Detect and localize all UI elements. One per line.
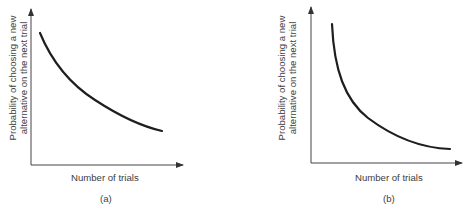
chart-b [311, 7, 462, 163]
y-label-line1: Probability of choosing a new [7, 0, 18, 158]
x-axis-label-b: Number of trials [355, 172, 423, 183]
panel-caption-a: (a) [100, 193, 112, 204]
y-label-line2: alternative on the next trial [287, 0, 298, 158]
curve-a [40, 33, 162, 131]
panel-caption-b: (b) [383, 193, 395, 204]
y-label-line2: alternative on the next trial [18, 0, 29, 158]
y-label-line1: Probability of choosing a new [276, 0, 287, 158]
y-axis-label-b: Probability of choosing a new alternativ… [276, 0, 300, 158]
x-axis-label-a: Number of trials [71, 172, 139, 183]
chart-a [31, 9, 183, 165]
y-axis-label-a: Probability of choosing a new alternativ… [7, 0, 31, 158]
curve-b [332, 24, 450, 149]
